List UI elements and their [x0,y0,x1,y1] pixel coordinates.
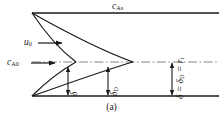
delta-d-symbol: δ [109,92,119,96]
upper-velocity-boundary-layer-curve [32,13,76,62]
velocity-boundary-layer-thickness-label: δ [70,92,80,96]
delta-equality-tail: = r [175,60,185,75]
merged-boundary-layer-thickness-label: δ = δD = ri [176,58,186,99]
upper-concentration-boundary-layer-curve [32,13,133,62]
concentration-boundary-layer-thickness-label: δD [110,87,120,96]
boundary-layer-diagram [0,0,223,118]
inlet-velocity-label: u0 [24,38,32,48]
delta-equality-subscript: D [178,74,185,79]
delta-equality-head: δ = δ [175,79,185,99]
inlet-velocity-subscript: 0 [29,40,32,47]
delta-equality-tail-subscript: i [178,58,185,60]
figure-container: cAs u0 cA0 δ δD δ = δD = ri (a) [0,0,223,118]
delta-d-subscript: D [112,87,119,92]
inlet-concentration-label: cA0 [7,58,19,68]
inlet-concentration-subscript: A0 [11,60,19,67]
delta-symbol: δ [69,92,79,96]
wall-concentration-label: cAs [112,2,123,12]
figure-caption: (a) [0,102,223,112]
wall-concentration-subscript: As [116,4,123,11]
